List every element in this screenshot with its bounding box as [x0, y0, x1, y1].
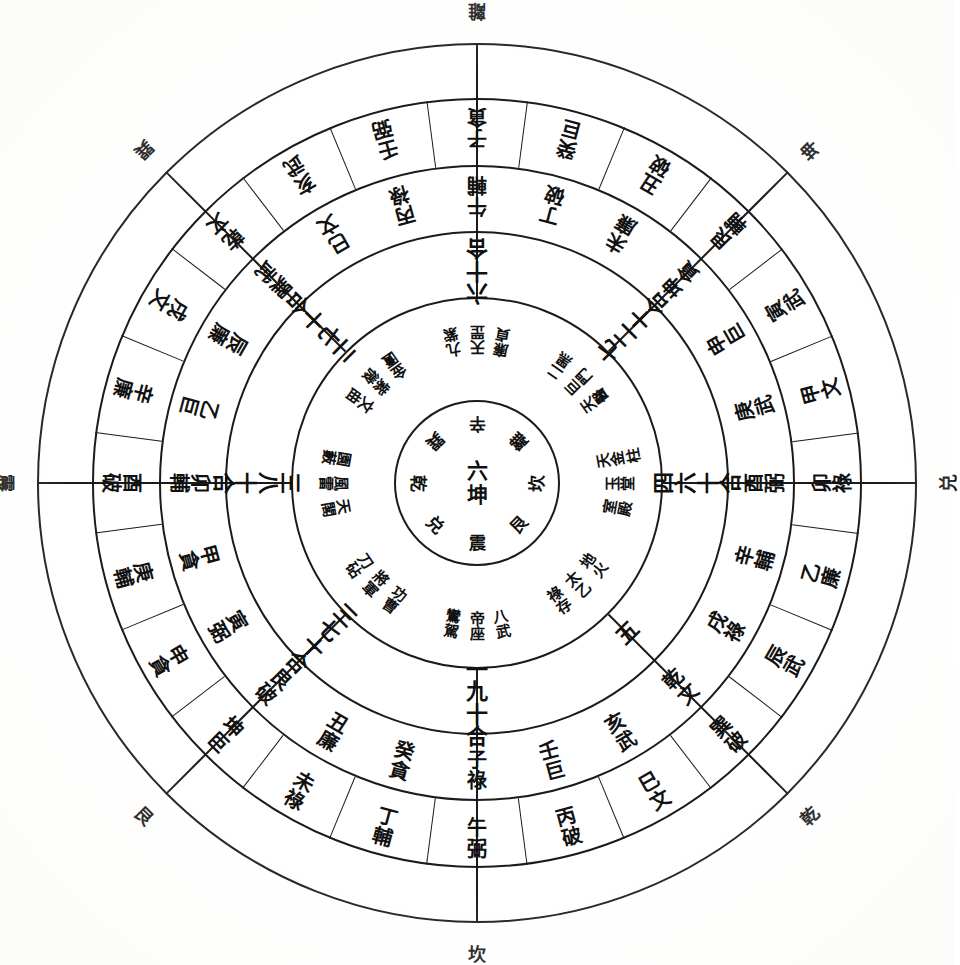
outer-label-kan: 坎 [468, 940, 486, 965]
outer-label-qian: 乾 [794, 800, 825, 831]
outer-label-gen: 艮 [129, 800, 160, 831]
outer-label-kun: 坤 [794, 135, 825, 166]
outer-label-li: 離 [468, 0, 486, 26]
outer-label-zhen: 震 [0, 474, 20, 492]
outer-label-dui: 兑 [934, 474, 960, 492]
outer-label-xun: 巽 [129, 135, 160, 166]
